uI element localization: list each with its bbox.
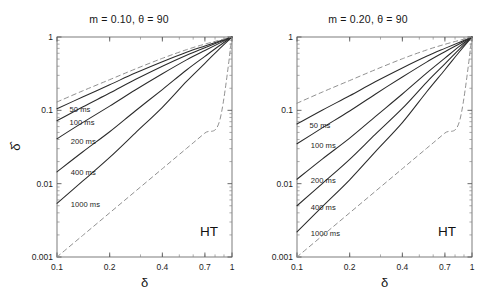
- curve-200-ms: [297, 37, 472, 179]
- curve-50-ms: [297, 37, 472, 124]
- curve-label-400-ms: 400 ms: [71, 168, 96, 177]
- curve-label-1000-ms: 1000 ms: [311, 229, 340, 238]
- x-tick-label: 1: [230, 262, 235, 272]
- curve-label-50-ms: 50 ms: [310, 121, 331, 130]
- x-axis-label: δ: [381, 275, 388, 290]
- x-tick-label: 0.1: [51, 262, 63, 272]
- chart-panel-left: m = 0.10, θ = 90 HT 0.0010.010.110.10.20…: [0, 0, 240, 303]
- x-tick-label: 0.2: [344, 262, 356, 272]
- y-tick-label: 0.01: [276, 179, 293, 189]
- y-tick-label: 0.01: [36, 179, 53, 189]
- y-tick-label: 0.1: [281, 105, 293, 115]
- x-tick-label: 0.4: [396, 262, 408, 272]
- x-axis-label: δ: [141, 275, 148, 290]
- curve-upper-bound: [297, 37, 472, 103]
- x-tick-label: 0.2: [104, 262, 116, 272]
- y-tick-label: 1: [288, 32, 293, 42]
- corner-tag-left: HT: [200, 224, 218, 239]
- x-tick-label: 0.7: [199, 262, 211, 272]
- chart-panel-right: m = 0.20, θ = 90 HT 0.0010.010.110.10.20…: [240, 0, 480, 303]
- curve-label-200-ms: 200 ms: [71, 137, 96, 146]
- curve-label-100-ms: 100 ms: [311, 141, 336, 150]
- x-tick-label: 1: [470, 262, 475, 272]
- curve-label-100-ms: 100 ms: [70, 118, 95, 127]
- y-tick-label: 1: [48, 32, 53, 42]
- corner-tag-right: HT: [438, 224, 456, 239]
- x-tick-label: 0.7: [439, 262, 451, 272]
- curve-label-1000-ms: 1000 ms: [71, 200, 100, 209]
- y-axis-label: δ̂: [8, 143, 23, 150]
- y-tick-label: 0.001: [272, 252, 293, 262]
- y-tick-label: 0.1: [41, 105, 53, 115]
- y-tick-label: 0.001: [32, 252, 53, 262]
- curve-label-200-ms: 200 ms: [311, 176, 336, 185]
- x-tick-label: 0.1: [291, 262, 303, 272]
- x-tick-label: 0.4: [156, 262, 168, 272]
- curve-label-50-ms: 50 ms: [70, 105, 91, 114]
- curve-label-400-ms: 400 ms: [311, 203, 336, 212]
- figure-canvas: m = 0.10, θ = 90 HT 0.0010.010.110.10.20…: [0, 0, 480, 303]
